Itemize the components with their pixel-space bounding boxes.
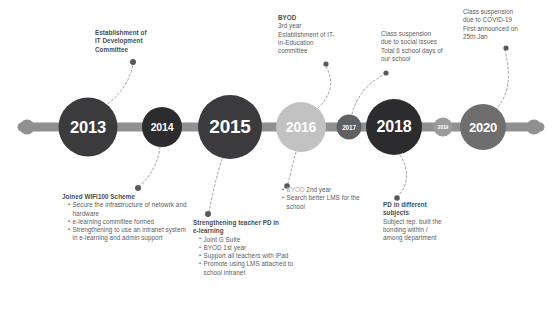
connector-2013 xyxy=(108,64,133,104)
annotation-class-suspension-social: Class suspension due to social issues To… xyxy=(381,30,473,63)
timeline-cap-left xyxy=(20,120,35,135)
pd-subjects-line-2: bonding within / xyxy=(383,226,473,234)
annotation-teacher-pd: Strengthening teacher PD in e-learning J… xyxy=(193,219,313,277)
suspension-social-line-3: Total 6 school days of xyxy=(381,47,473,55)
wifi100-bullet-1: Secure the infrastructure of netowrk and… xyxy=(68,201,190,218)
pd-subjects-heading-1: PD in different xyxy=(383,201,473,209)
connector-2020 xyxy=(496,50,508,110)
covid-line-1: Class suspension xyxy=(463,8,555,16)
wifi100-heading: Joined WIFI100 Scheme xyxy=(62,193,190,201)
it-committee-line-1: Establishment of xyxy=(95,29,187,37)
wifi100-bullet-2: e-learning committee formed xyxy=(68,218,190,226)
timeline-cap-right xyxy=(527,120,542,135)
covid-line-2: due to COVID-19 xyxy=(463,16,555,24)
annotation-pd-subjects: PD in different subjects Subject rep. bu… xyxy=(383,201,473,242)
pd-subjects-line-1: Subject rep. built the xyxy=(383,218,473,226)
connector-2016 xyxy=(318,66,331,108)
node-label-2015: 2015 xyxy=(209,116,250,138)
it-committee-line-2: IT Development xyxy=(95,37,187,45)
teacher-pd-bullet-4: Promote using LMS attached to school int… xyxy=(199,260,313,277)
suspension-social-line-2: due to social issues xyxy=(381,38,473,46)
byod-bottom-bullet-1-rest: 2nd year xyxy=(305,186,332,193)
byod-bottom-bullet-1: BYOD 2nd year xyxy=(282,186,362,194)
byod-top-line-2: 3rd year xyxy=(278,22,356,30)
annotation-byod-top: BYOD 3rd year Establishment of IT- in-Ed… xyxy=(278,14,356,55)
annotation-covid: Class suspension due to COVID-19 First a… xyxy=(463,8,555,41)
node-label-2020: 2020 xyxy=(469,120,497,135)
teacher-pd-heading-2: e-learning xyxy=(193,227,313,235)
timeline-infographic: 2013 2014 2015 2016 2017 2018 2019 2020 … xyxy=(0,0,560,311)
annotation-it-committee: Establishment of IT Development Committe… xyxy=(95,29,187,54)
node-label-2017: 2017 xyxy=(342,124,356,131)
connector-2015 xyxy=(209,159,222,212)
covid-line-3: First announced on xyxy=(463,25,555,33)
teacher-pd-bullet-1: Joint G Suite xyxy=(199,236,313,244)
node-label-2013: 2013 xyxy=(70,118,106,137)
wifi100-bullet-list: Secure the infrastructure of netowrk and… xyxy=(62,201,190,242)
teacher-pd-heading-1: Strengthening teacher PD in xyxy=(193,219,313,227)
teacher-pd-bullet-list: Joint G Suite BYOD 1st year Support all … xyxy=(193,236,313,277)
covid-line-4: 25th Jan xyxy=(463,33,555,41)
annotation-byod-bottom: BYOD 2nd year Search better LMS for the … xyxy=(276,186,362,211)
node-label-2016: 2016 xyxy=(286,119,316,135)
byod-top-line-4: in-Education xyxy=(278,39,356,47)
byod-top-line-3: Establishment of IT- xyxy=(278,31,356,39)
teacher-pd-bullet-2: BYOD 1st year xyxy=(199,244,313,252)
teacher-pd-bullet-3: Support all teachers with iPad xyxy=(199,252,313,260)
connector-2018 xyxy=(398,155,407,196)
pd-subjects-heading-2: subjects xyxy=(383,209,473,217)
connector-2014 xyxy=(140,147,160,186)
byod-bottom-dim-prefix: BYOD xyxy=(287,186,305,193)
byod-bottom-bullet-2: Search better LMS for the school xyxy=(282,194,362,211)
suspension-social-line-4: our school xyxy=(381,55,473,63)
wifi100-bullet-3: Strengthening to use an intranet system … xyxy=(68,226,190,243)
pd-subjects-line-3: among department xyxy=(383,234,473,242)
suspension-social-line-1: Class suspension xyxy=(381,30,473,38)
node-label-2018: 2018 xyxy=(377,118,412,136)
node-label-2019: 2019 xyxy=(438,124,448,130)
annotation-wifi100: Joined WIFI100 Scheme Secure the infrast… xyxy=(62,193,190,243)
it-committee-line-3: Committee xyxy=(95,46,187,54)
byod-bottom-bullet-list: BYOD 2nd year Search better LMS for the … xyxy=(276,186,362,211)
node-label-2014: 2014 xyxy=(151,121,174,133)
connector-2016-lower xyxy=(288,152,296,184)
byod-top-line-1: BYOD xyxy=(278,14,356,22)
byod-top-line-5: committee xyxy=(278,47,356,55)
